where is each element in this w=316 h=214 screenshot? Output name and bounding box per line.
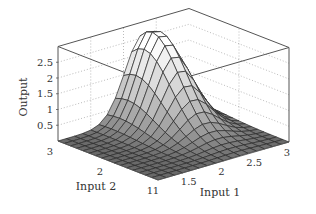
svg-text:2: 2 <box>218 166 224 177</box>
x-axis-label: Input 1 <box>200 186 240 199</box>
svg-text:0.5: 0.5 <box>37 120 53 131</box>
svg-text:2.5: 2.5 <box>246 157 262 168</box>
svg-text:1.5: 1.5 <box>37 88 53 99</box>
surface-plot: 0.511.522.511.522.53123 Output Input 2 I… <box>0 0 316 214</box>
svg-text:1: 1 <box>153 185 159 196</box>
svg-text:3: 3 <box>47 146 53 157</box>
svg-text:2: 2 <box>47 73 53 84</box>
svg-text:2: 2 <box>97 166 103 177</box>
svg-text:3: 3 <box>284 147 290 158</box>
svg-text:1: 1 <box>47 104 53 115</box>
z-axis-label: Output <box>17 77 30 117</box>
svg-text:2.5: 2.5 <box>37 57 53 68</box>
y-axis-label: Input 2 <box>76 180 116 193</box>
svg-text:1: 1 <box>147 185 153 196</box>
svg-text:1.5: 1.5 <box>181 176 197 187</box>
